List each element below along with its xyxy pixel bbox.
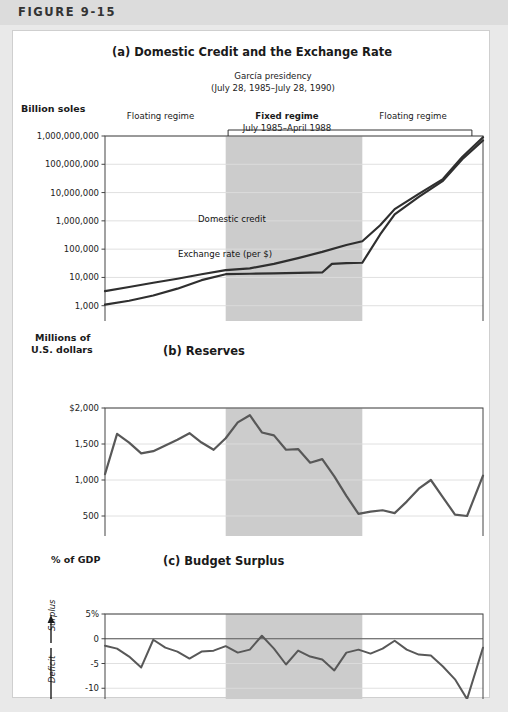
y-axis-tick-label: -10 <box>85 683 99 693</box>
garcia-presidency-bracket <box>228 130 472 136</box>
y-axis-tick-label: 1,000,000 <box>56 216 99 226</box>
panel-a-plot: 198319841985198619871988198919901001,000… <box>13 31 491 321</box>
series-label-exchange-rate: Exchange rate (per $) <box>178 249 272 259</box>
y-axis-tick-label: 1,000 <box>75 301 99 311</box>
y-axis-tick-label: 1,000,000,000 <box>37 131 99 141</box>
y-axis-tick-label: $2,000 <box>69 403 99 413</box>
series-label-domestic-credit: Domestic credit <box>198 214 266 224</box>
shaded-regime-band <box>226 136 363 321</box>
surplus-arrow-head <box>48 615 55 623</box>
y-axis-tick-label: 10,000 <box>69 272 99 282</box>
y-axis-tick-label: 1,500 <box>75 439 99 449</box>
y-axis-tick-label: 100,000,000 <box>45 159 99 169</box>
figure-card: (a) Domestic Credit and the Exchange Rat… <box>12 30 490 698</box>
panel-c-plot: 19831984198519861987198819891990-15-10-5… <box>13 536 491 699</box>
y-axis-tick-label: 0 <box>94 634 99 644</box>
y-axis-tick-label: -5 <box>91 659 99 669</box>
y-axis-tick-label: 5% <box>86 609 100 619</box>
y-axis-tick-label: 500 <box>83 511 99 521</box>
panel-b-plot: 1983198419851986198719881989199005001,00… <box>13 321 491 536</box>
y-axis-tick-label: 1,000 <box>75 475 99 485</box>
shaded-regime-band <box>226 408 363 536</box>
y-axis-tick-label: 10,000,000 <box>50 188 99 198</box>
y-axis-tick-label: 100,000 <box>64 244 99 254</box>
figure-root: FIGURE 9-15 (a) Domestic Credit and the … <box>0 0 508 712</box>
figure-number-label: FIGURE 9-15 <box>18 5 116 19</box>
